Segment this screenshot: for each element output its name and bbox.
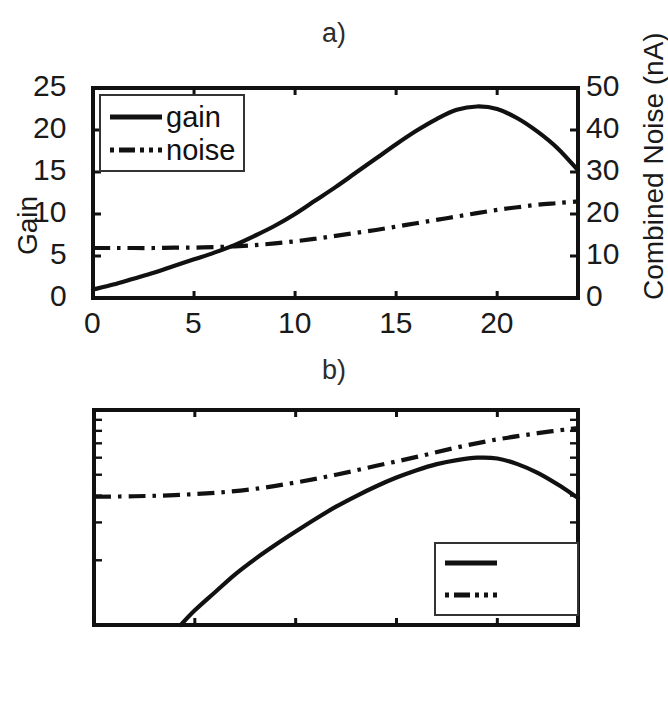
panel-a-left-tick-5: 5 [50,239,67,269]
panel-a-left-tick-20: 20 [33,113,66,143]
panel-a-left-tick-0: 0 [50,281,67,311]
panel-a-x-tick-20: 20 [480,308,513,338]
panel-a-left-tick-15: 15 [33,155,66,185]
panel-a-right-tick-40: 40 [586,113,619,143]
panel-a-left-axis-label: Gain [14,196,42,255]
panel-a-right-tick-10: 10 [586,239,619,269]
panel-a-plot-area [0,0,668,355]
panel-a-x-tick-15: 15 [379,308,412,338]
panel-a-right-axis-label: Combined Noise (nA) [640,32,668,300]
panel-a-right-tick-20: 20 [586,197,619,227]
panel-a-legend-label-gain: gain [166,103,221,132]
panel-a-right-tick-0: 0 [586,281,603,311]
panel-b: b) 1 10 1 10 0 5 10 15 20 Gain (arb unit… [0,345,668,709]
panel-a-right-tick-30: 30 [586,155,619,185]
panel-a-x-tick-0: 0 [84,308,101,338]
panel-a-x-tick-5: 5 [185,308,202,338]
panel-a: a) 0 5 10 15 20 25 0 10 20 30 40 50 0 5 … [0,0,668,355]
panel-a-right-tick-50: 50 [586,71,619,101]
panel-a-left-tick-25: 25 [33,71,66,101]
panel-a-legend-label-noise: noise [166,136,235,165]
panel-a-x-tick-10: 10 [278,308,311,338]
panel-b-plot-area [0,345,668,709]
figure-gain-noise-vs-bias: a) 0 5 10 15 20 25 0 10 20 30 40 50 0 5 … [0,0,668,709]
